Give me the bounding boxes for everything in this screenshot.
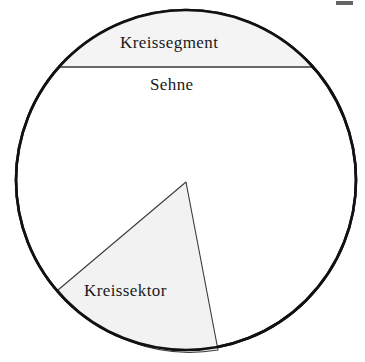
circle-geometry-diagram <box>0 0 365 362</box>
geometry-figure-container: Kreissegment Sehne Kreissektor <box>0 0 365 362</box>
label-sehne: Sehne <box>150 75 194 95</box>
label-kreissegment: Kreissegment <box>120 33 218 53</box>
label-kreissektor: Kreissektor <box>84 281 167 301</box>
scan-artifact-icon <box>336 1 353 5</box>
